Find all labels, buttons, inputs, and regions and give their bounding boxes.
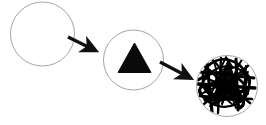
stage-3-scribble: [198, 57, 255, 113]
arrow-2-group: [160, 62, 191, 78]
arrow-2-shaft: [160, 62, 191, 78]
stage-1-group: [11, 2, 75, 66]
arrow-1-shaft: [68, 37, 96, 51]
stage-3-group: [197, 56, 258, 117]
stage-2-group: [104, 30, 164, 90]
stage-1-circle: [11, 2, 75, 66]
diagram-canvas: [0, 0, 266, 125]
diagram-svg: [0, 0, 266, 125]
stage-2-triangle: [118, 43, 151, 73]
arrow-1-group: [68, 37, 96, 51]
